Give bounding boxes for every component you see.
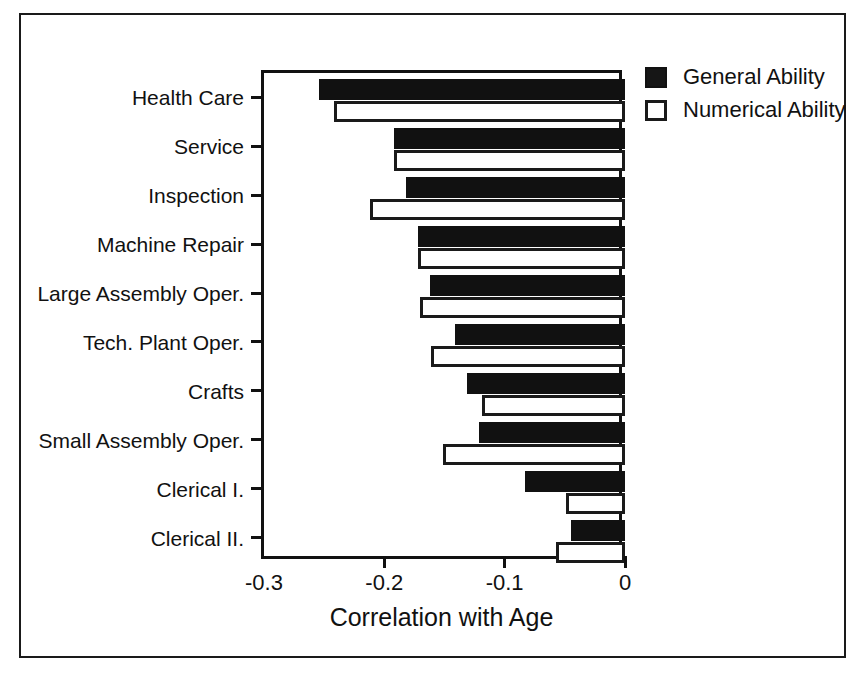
y-axis-tick xyxy=(251,145,264,148)
y-axis-tick xyxy=(251,389,264,392)
bar-general-0 xyxy=(319,79,625,100)
y-axis-tick xyxy=(251,536,264,539)
bar-general-1 xyxy=(394,128,625,149)
bar-general-3 xyxy=(418,226,625,247)
y-axis-label-inspection: Inspection xyxy=(148,185,244,206)
y-axis-label-small-assembly-oper: Small Assembly Oper. xyxy=(39,429,244,450)
legend: General Ability Numerical Ability xyxy=(645,62,845,128)
x-axis-tick xyxy=(383,556,386,568)
bar-general-8 xyxy=(525,471,625,492)
y-axis-tick xyxy=(251,292,264,295)
bar-general-5 xyxy=(455,324,625,345)
y-axis-label-clerical-ii: Clerical II. xyxy=(151,527,244,548)
bar-numerical-3 xyxy=(418,248,625,269)
bar-general-2 xyxy=(406,177,625,198)
bar-general-9 xyxy=(571,520,625,541)
bars-layer xyxy=(264,73,619,556)
legend-label-general: General Ability xyxy=(683,66,825,88)
x-axis-tick-label-2: -0.1 xyxy=(486,572,524,594)
legend-swatch-general-icon xyxy=(645,67,667,88)
y-axis-label-health-care: Health Care xyxy=(132,87,244,108)
x-axis-tick-label-1: -0.2 xyxy=(365,572,403,594)
legend-swatch-numerical-icon xyxy=(645,100,667,121)
legend-item-general: General Ability xyxy=(645,62,845,92)
x-axis-tick-label-0: -0.3 xyxy=(245,572,283,594)
bar-numerical-0 xyxy=(334,101,625,122)
legend-label-numerical: Numerical Ability xyxy=(683,99,846,121)
bar-general-7 xyxy=(479,422,625,443)
y-axis-label-clerical-i: Clerical I. xyxy=(156,478,244,499)
bar-general-4 xyxy=(430,275,625,296)
bar-numerical-7 xyxy=(443,444,625,465)
x-axis-tick xyxy=(503,556,506,568)
bar-numerical-8 xyxy=(566,493,625,514)
bar-numerical-4 xyxy=(420,297,625,318)
y-axis-label-machine-repair: Machine Repair xyxy=(97,234,244,255)
y-axis-tick xyxy=(251,96,264,99)
x-axis-title: Correlation with Age xyxy=(261,605,622,630)
legend-item-numerical: Numerical Ability xyxy=(645,95,845,125)
bar-numerical-1 xyxy=(394,150,625,171)
y-axis-label-service: Service xyxy=(174,136,244,157)
y-axis-tick xyxy=(251,243,264,246)
y-axis-label-crafts: Crafts xyxy=(188,380,244,401)
figure-root: Health CareServiceInspectionMachine Repa… xyxy=(0,0,864,674)
bar-numerical-9 xyxy=(556,542,625,563)
plot-area: Health CareServiceInspectionMachine Repa… xyxy=(261,70,622,559)
bar-numerical-2 xyxy=(370,199,625,220)
bar-numerical-5 xyxy=(431,346,625,367)
y-axis-label-large-assembly-oper: Large Assembly Oper. xyxy=(37,283,244,304)
bar-numerical-6 xyxy=(482,395,625,416)
y-axis-tick xyxy=(251,438,264,441)
x-axis-tick-label-3: 0 xyxy=(619,572,631,594)
y-axis-tick xyxy=(251,194,264,197)
x-axis-tick xyxy=(624,556,627,568)
y-axis-tick xyxy=(251,340,264,343)
y-axis-label-tech-plant-oper: Tech. Plant Oper. xyxy=(83,331,244,352)
bar-general-6 xyxy=(467,373,625,394)
y-axis-tick xyxy=(251,487,264,490)
